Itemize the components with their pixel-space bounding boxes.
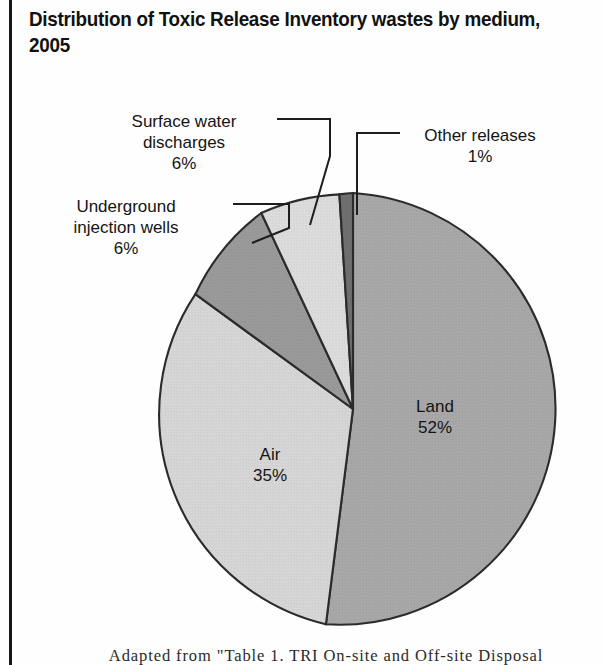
slice-label-air: Air 35% <box>230 444 310 486</box>
callout-label-underground-injection-wells: Underground injection wells 6% <box>26 196 226 259</box>
slice-label-land: Land 52% <box>390 396 480 438</box>
figure-container: Distribution of Toxic Release Inventory … <box>0 0 603 665</box>
figure-caption: Adapted from "Table 1. TRI On-site and O… <box>62 646 590 665</box>
callout-label-surface-water-discharges: Surface water discharges 6% <box>96 111 272 174</box>
pie-chart <box>0 0 603 665</box>
callout-label-other-releases: Other releases 1% <box>404 125 556 167</box>
